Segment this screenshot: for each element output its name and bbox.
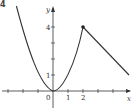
x-axis-arrow-icon bbox=[126, 89, 131, 93]
x-tick-label-1: 1 bbox=[66, 94, 70, 102]
function-graph: y 4 1 0 1 2 x bbox=[0, 0, 134, 111]
y-axis-arrow-icon bbox=[51, 6, 55, 12]
x-tick-label-2: 2 bbox=[81, 94, 85, 102]
y-tick-label-4: 4 bbox=[46, 24, 51, 32]
x-axis-label: x bbox=[127, 95, 131, 103]
linear-segment bbox=[83, 27, 129, 75]
y-tick-label-1: 1 bbox=[46, 72, 50, 80]
closed-dot-marker bbox=[81, 25, 85, 29]
origin-label: 0 bbox=[46, 94, 50, 102]
y-axis-label: y bbox=[45, 6, 51, 14]
